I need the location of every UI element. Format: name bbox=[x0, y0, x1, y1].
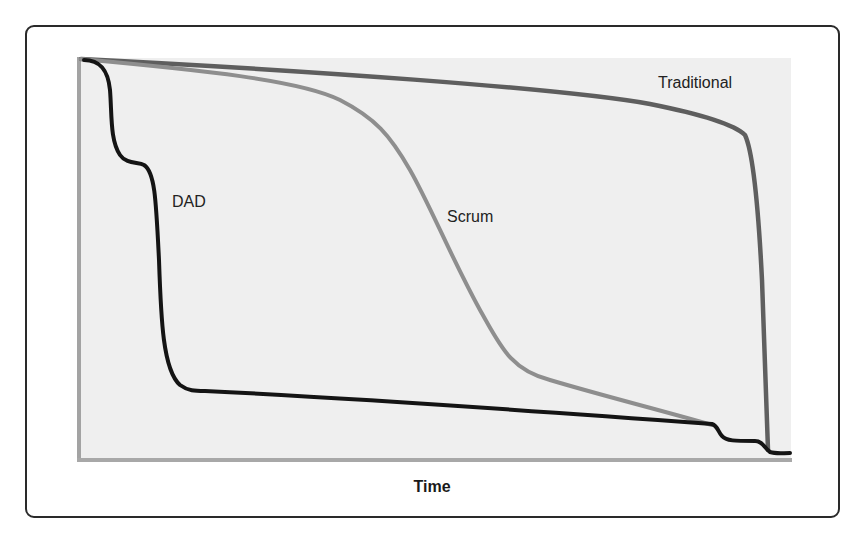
dad-label: DAD bbox=[172, 193, 206, 210]
burndown-chart: DAD Scrum Traditional Time bbox=[0, 0, 866, 542]
scrum-label: Scrum bbox=[447, 208, 493, 225]
x-axis-title: Time bbox=[413, 478, 450, 495]
traditional-label: Traditional bbox=[658, 74, 732, 91]
plot-area bbox=[79, 58, 791, 460]
